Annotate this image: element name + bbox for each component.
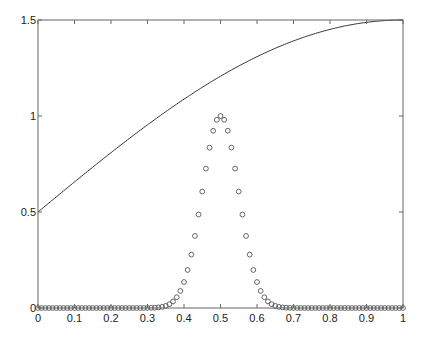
marker-point xyxy=(244,234,249,239)
marker-point xyxy=(262,295,267,300)
marker-point xyxy=(196,212,201,217)
gaussian-markers xyxy=(36,114,406,311)
x-tick-label: 0.8 xyxy=(322,312,337,324)
x-tick-label: 0.1 xyxy=(67,312,82,324)
marker-point xyxy=(193,234,198,239)
marker-point xyxy=(233,166,238,171)
x-tick-labels: 00.10.20.30.40.50.60.70.80.91 xyxy=(35,312,406,324)
x-tick-label: 1 xyxy=(400,312,406,324)
marker-point xyxy=(236,189,241,194)
y-tick-label: 0 xyxy=(30,302,36,314)
marker-point xyxy=(214,117,219,122)
marker-point xyxy=(225,128,230,133)
marker-point xyxy=(185,268,190,273)
chart: 00.10.20.30.40.50.60.70.80.91 00.511.5 xyxy=(0,0,425,339)
marker-point xyxy=(200,189,205,194)
x-tick-label: 0.2 xyxy=(103,312,118,324)
curve-line xyxy=(38,20,403,212)
marker-point xyxy=(218,114,223,119)
x-tick-label: 0.9 xyxy=(359,312,374,324)
marker-point xyxy=(182,280,187,285)
marker-point xyxy=(258,289,263,294)
y-tick-label: 1 xyxy=(30,110,36,122)
y-tick-labels: 00.511.5 xyxy=(21,14,36,314)
axis-ticks xyxy=(38,20,403,308)
marker-point xyxy=(211,128,216,133)
x-tick-label: 0.7 xyxy=(286,312,301,324)
marker-point xyxy=(255,280,260,285)
x-tick-label: 0.4 xyxy=(176,312,191,324)
marker-point xyxy=(189,252,194,257)
marker-point xyxy=(247,252,252,257)
y-tick-label: 1.5 xyxy=(21,14,36,26)
marker-point xyxy=(251,268,256,273)
marker-point xyxy=(240,212,245,217)
marker-point xyxy=(174,295,179,300)
marker-point xyxy=(229,145,234,150)
marker-point xyxy=(207,145,212,150)
marker-point xyxy=(222,117,227,122)
marker-point xyxy=(178,289,183,294)
marker-point xyxy=(204,166,209,171)
y-tick-label: 0.5 xyxy=(21,206,36,218)
axes-box xyxy=(38,20,403,308)
x-tick-label: 0.3 xyxy=(140,312,155,324)
x-tick-label: 0.6 xyxy=(249,312,264,324)
marker-point xyxy=(171,299,176,304)
x-tick-label: 0.5 xyxy=(213,312,228,324)
